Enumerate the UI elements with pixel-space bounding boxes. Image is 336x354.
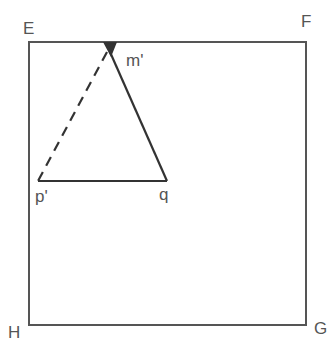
dashed-edge-m-p — [38, 52, 107, 181]
label-f: F — [301, 13, 311, 30]
square-efgh — [29, 42, 306, 325]
solid-edge-m-q — [110, 52, 167, 181]
label-m-prime: m' — [126, 52, 143, 69]
label-g: G — [314, 320, 327, 337]
label-h: H — [8, 324, 20, 341]
label-q: q — [159, 186, 168, 203]
diagram-canvas — [0, 0, 336, 354]
label-e: E — [23, 20, 34, 37]
label-p-prime: p' — [35, 188, 48, 205]
